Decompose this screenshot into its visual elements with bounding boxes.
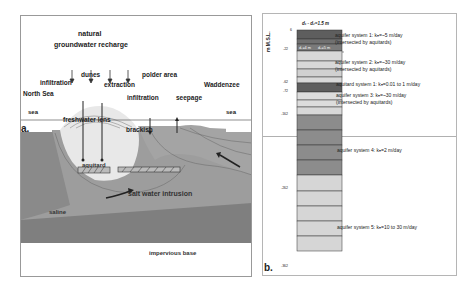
inner-label-d1: d₁=4 m: [299, 47, 311, 51]
top-thickness-label: d₁ - d₂=1.5 m: [302, 22, 329, 27]
system-1-line2: (intersected by aquitards): [335, 40, 391, 45]
axis-label: m M.S.L.: [266, 31, 271, 52]
stratigraphic-column-graphic: [262, 13, 457, 293]
recharge-label-1: natural: [78, 30, 101, 37]
sea-left-label: sea: [28, 109, 38, 115]
dunes-label: dunes: [81, 72, 100, 79]
extraction-label: extraction: [104, 82, 135, 89]
saline-label: saline: [49, 209, 66, 215]
infiltration-right-label: infiltration: [127, 95, 159, 102]
system-4-line2: (intersected by aquitards): [336, 100, 392, 105]
panel-a-label: a.: [21, 124, 29, 134]
infiltration-left-label: infiltration: [40, 80, 72, 87]
sea-right-label: sea: [226, 109, 236, 115]
system-1-line1: aquifer system 1: kₕ=~5 m/day: [335, 33, 403, 38]
polder-area-label: polder area: [142, 72, 177, 79]
impervious-base-label: impervious base: [149, 250, 196, 256]
panel-b-label: b.: [264, 263, 273, 273]
system-2-line2: (intersected by aquitards): [335, 67, 391, 72]
system-6-line1: aquifer system 5: kₕ=10 to 30 m/day: [337, 225, 417, 230]
depth-6: 6: [290, 29, 292, 33]
depth-minus-162: -162: [281, 113, 288, 117]
system-2-line1: aquifer system 2: kₕ=~30 m/day: [335, 60, 405, 65]
freshwater-lens-label: freshwater lens: [63, 117, 111, 124]
inner-label-d2: d₂=5 m: [318, 47, 330, 51]
depth-minus-262: -262: [281, 187, 288, 191]
system-3-line1: aquitard system 1: kₕ=0.01 to 1 m/day: [336, 82, 420, 87]
depth-minus-72: -72: [283, 90, 288, 94]
recharge-label-2: groundwater recharge: [54, 41, 128, 48]
seepage-label: seepage: [176, 95, 202, 102]
depth-minus-362: -362: [281, 265, 288, 269]
north-sea-label: North Sea: [23, 91, 54, 98]
salt-water-intrusion-label: salt water intrusion: [128, 190, 192, 197]
waddenzee-label: Waddenzee: [204, 82, 240, 89]
aquitard-label: aquitard: [82, 162, 106, 168]
system-5-line1: aquifer system 4: kₕ=2 m/day: [337, 148, 402, 153]
depth-minus-62: -62: [283, 81, 288, 85]
system-4-line1: aquifer system 3: kₕ=~30 m/day: [336, 93, 406, 98]
depth-minus-22: -22: [283, 48, 288, 52]
brackish-label: brackish: [126, 127, 153, 134]
